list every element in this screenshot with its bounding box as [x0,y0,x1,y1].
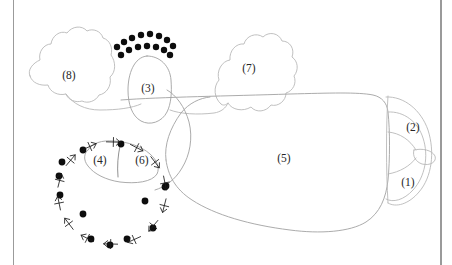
body-inner-divider [155,90,191,190]
label-3: (3) [141,82,155,95]
right-inner-arc-upper [388,132,416,150]
upper-dot-arc-dot [138,32,144,38]
upper-dot-arc-dot [170,43,176,49]
right-inner-arc-lower [388,158,416,174]
direction-tick-icon [160,199,169,213]
figure-canvas: (1)(2)(3)(4)(5)(6)(7)(8) [0,0,452,265]
left-wing-outline [29,27,114,102]
direction-tick-icon [65,218,74,229]
lower-dot-ring-dot [142,198,149,205]
direction-tick-icon [104,239,118,248]
upper-dot-arc-dot [118,52,124,58]
label-1: (1) [401,176,415,189]
direction-tick-icon [55,196,64,210]
lower-dot-ring-dot [59,159,66,166]
right-wing-sweep [170,103,228,114]
upper-dot-arc-dot [147,31,153,37]
upper-dot-arc-dot [164,37,170,43]
upper-dot-arc-dot [114,44,120,50]
label-2: (2) [406,121,420,134]
direction-tick-icon [151,157,160,168]
diagram-vector-layer: (1)(2)(3)(4)(5)(6)(7)(8) [0,0,452,265]
lobe-divider-line [118,146,120,177]
lower-dot-ring-dot [80,211,87,218]
direction-tick-icon [66,155,75,166]
dot-layer [56,31,177,249]
upper-dot-arc-dot [144,43,150,49]
label-4: (4) [93,154,107,167]
region-label-layer: (1)(2)(3)(4)(5)(6)(7)(8) [62,62,420,189]
tick-marks-layer [55,138,170,249]
main-body-lower-edge [166,97,210,160]
right-wing-outline [215,34,297,111]
label-8: (8) [62,69,76,82]
upper-dot-arc-dot [167,52,173,58]
label-5: (5) [277,152,291,165]
lower-dot-ring-dot [80,147,87,154]
upper-dot-arc-dot [135,44,141,50]
upper-dot-arc-dot [161,47,167,53]
main-body-outline [121,93,390,232]
upper-dot-arc-dot [156,33,162,39]
label-7: (7) [242,62,256,75]
upper-dot-arc-dot [129,35,135,41]
upper-dot-arc-dot [126,47,132,53]
label-6: (6) [135,154,149,167]
upper-right-arc-outline [386,97,432,205]
upper-dot-arc-dot [121,39,127,45]
direction-tick-icon [128,235,141,243]
upper-dot-arc-dot [153,44,159,50]
